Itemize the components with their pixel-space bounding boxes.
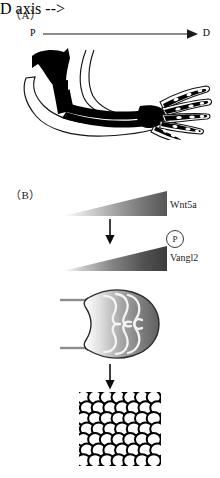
cell	[147, 454, 161, 466]
wnt5a-label: Wnt5a	[170, 199, 197, 210]
arrow-bud-to-cells	[103, 364, 117, 394]
vangl2-label: Vangl2	[170, 252, 198, 263]
vangl2-gradient	[63, 246, 167, 272]
axis-arrow-icon	[43, 24, 198, 44]
wnt5a-gradient	[63, 191, 167, 217]
vertebrate-limb-skeleton	[8, 44, 216, 140]
cell-array-canvas	[79, 392, 161, 466]
figure-root: （A） D axis --> P D	[0, 0, 220, 478]
phosphorylation-badge-label: P	[172, 235, 177, 244]
arrow-gradient-to-gradient	[103, 219, 117, 249]
axis-label-proximal: P	[30, 27, 36, 38]
polarized-cell-array	[79, 392, 161, 466]
limb-bud-diagram	[58, 286, 164, 362]
phosphorylation-badge: P	[166, 230, 184, 248]
panel-a-label: （A）	[10, 6, 41, 22]
axis-label-distal: D	[203, 27, 210, 38]
panel-b-label: （B）	[10, 186, 41, 202]
proximal-distal-axis: P D	[30, 24, 210, 44]
